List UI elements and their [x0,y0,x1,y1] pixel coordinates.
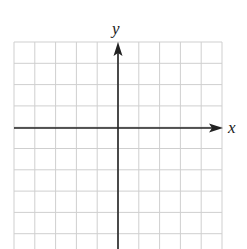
x-axis-label: x [228,119,236,136]
y-axis-label: y [112,20,120,37]
coordinate-plane: ʿ ‾ y x [0,0,247,249]
grid-svg [0,0,247,249]
